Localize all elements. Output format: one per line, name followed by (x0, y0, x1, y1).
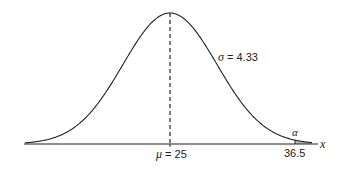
normal-curve (25, 13, 312, 143)
x-axis-label: x (320, 137, 325, 152)
mean-label: μ = 25 (156, 147, 187, 162)
alpha-label: α (292, 126, 298, 138)
sigma-annotation: σ = 4.33 (218, 50, 258, 65)
critical-value-label: 36.5 (284, 147, 305, 159)
